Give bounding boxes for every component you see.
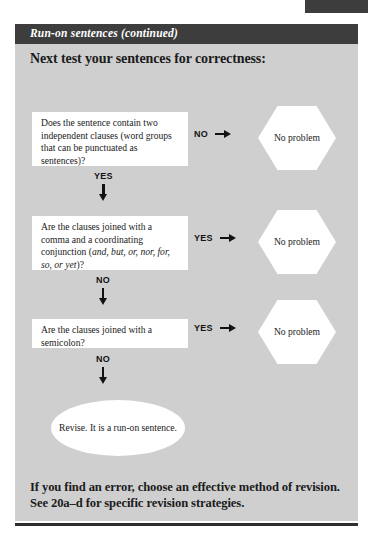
footer-note: If you find an error, choose an effectiv… [30,479,348,512]
flow-label-1: YES [94,171,113,181]
page-panel: Run-on sentences (continued) Next test y… [15,24,358,521]
arrow-down-icon [99,367,108,384]
outcome-label-1: No problem [274,132,320,144]
question-3-text: Are the clauses joined with a semicolon? [41,324,152,348]
branch-label-2: YES [194,233,213,243]
question-2-text-tail: )? [76,259,83,270]
branch-label-3: YES [194,323,213,333]
flowchart-branch-connector-1: NO [194,129,231,139]
outcome-label-2: No problem [274,236,320,248]
flow-label-3: NO [96,354,110,364]
arrow-down-icon [99,184,108,201]
arrow-right-icon [220,234,236,243]
section-header-title: Run-on sentences (continued) [30,27,178,39]
flowchart-outcome-hexagon-2: No problem [258,210,336,274]
flowchart-outcome-hexagon-1: No problem [258,106,336,170]
question-1-text: Does the sentence contain two independen… [41,117,172,166]
arrow-right-icon [215,130,231,139]
flowchart-flow-connector-3: NO [96,354,110,384]
flowchart-branch-connector-3: YES [194,323,236,333]
page-title: Next test your sentences for correctness… [30,51,266,67]
outcome-label-3: No problem [274,326,320,338]
section-header-bar: Run-on sentences (continued) [15,24,358,44]
flowchart-branch-connector-2: YES [194,233,236,243]
flowchart-question-box-3: Are the clauses joined with a semicolon? [32,319,188,348]
page-corner-tab [305,0,368,13]
flow-label-2: NO [96,275,110,285]
branch-label-1: NO [194,129,208,139]
flowchart-flow-connector-2: NO [96,275,110,305]
arrow-down-icon [99,288,108,305]
arrow-right-icon [220,324,236,333]
flowchart-question-box-1: Does the sentence contain two independen… [32,112,188,166]
terminal-label: Revise. It is a run-on sentence. [59,422,177,434]
flowchart-terminal-oval: Revise. It is a run-on sentence. [51,400,185,456]
flowchart-outcome-hexagon-3: No problem [258,300,336,364]
bottom-rule [15,523,358,526]
flowchart-flow-connector-1: YES [94,171,113,201]
flowchart-question-box-2: Are the clauses joined with a comma and … [32,216,188,270]
